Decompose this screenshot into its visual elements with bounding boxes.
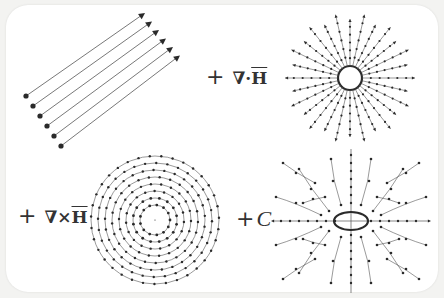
dot-icon [174,272,176,274]
arrowhead-icon [428,219,431,222]
dot-icon [376,196,379,199]
dot-icon [340,39,342,41]
dot-icon [97,249,99,251]
dot-icon [368,68,370,70]
dot-icon [342,48,344,50]
dot-icon [302,238,305,241]
dot-icon [203,225,205,227]
dot-icon [195,231,197,233]
dot-icon [210,209,212,211]
dot-icon [298,53,300,55]
dot-icon [115,188,117,190]
dot-icon [350,162,352,164]
dot-icon [350,242,352,244]
dot-icon [158,197,161,200]
arrowhead-icon [173,56,180,62]
dot-icon [135,206,138,209]
arrowhead-icon [348,19,351,22]
dot-icon [306,56,308,58]
dot-icon [368,81,370,83]
arrowhead-icon [404,89,407,92]
dot-icon [342,106,344,108]
dot-icon [367,100,369,102]
dot-icon [319,114,321,116]
dot-icon [289,220,291,222]
dot-icon [105,207,107,209]
dot-icon [333,89,335,91]
arrowhead-icon [387,125,390,128]
dot-icon [132,214,135,217]
dot-icon [340,236,343,239]
dot-icon [377,55,379,57]
dot-icon [171,157,173,159]
dot-icon [370,282,373,285]
dot-icon [390,188,393,191]
dot-icon [405,238,408,241]
dot-icon [299,66,301,68]
dot-icon [197,221,199,223]
dot-icon [418,278,421,281]
dot-icon [368,86,370,88]
dot-icon [182,211,184,213]
dot-icon [177,247,179,249]
dot-icon [123,171,125,173]
dot-icon [350,202,352,204]
dot-icon [327,123,329,125]
dot-icon [93,238,95,240]
dot-icon [405,268,408,271]
dot-icon [307,220,309,222]
dot-icon [275,244,278,247]
field-curve [283,259,315,279]
dot-icon [160,155,162,157]
dot-icon [415,220,417,222]
dot-icon [170,186,172,188]
dot-icon [120,273,122,275]
arrowhead-icon [292,89,295,92]
arrowhead-icon [285,76,288,79]
dot-icon [349,105,351,107]
dot-icon [298,101,300,103]
arrowhead-icon [309,125,312,128]
dot-icon [336,93,338,95]
arrowhead-icon [362,138,365,141]
arrowhead-icon [145,22,152,28]
dot-icon [150,269,152,271]
dot-icon [425,196,428,199]
field-curve [299,169,329,211]
dot-icon [173,173,175,175]
dot-icon [126,212,128,214]
dot-icon [202,188,204,190]
dot-icon [330,86,332,88]
dot-icon [418,162,421,165]
dot-icon [361,132,363,134]
dot-icon [175,214,178,217]
dot-icon [158,240,161,243]
dot-icon [177,167,179,169]
dot-icon [275,196,278,199]
dot-icon [330,158,333,161]
dot-icon [368,116,370,118]
dot-icon [350,170,352,172]
dot-icon [298,220,300,222]
dot-icon [325,107,327,109]
dot-icon [163,191,165,193]
dot-icon [299,88,301,90]
arrowhead-icon [159,39,166,45]
dot-icon [195,267,197,269]
dot-icon [129,203,131,205]
dot-icon [102,196,104,198]
dot-icon [379,77,381,79]
dot-icon [182,161,184,163]
dot-icon [158,176,160,178]
dot-icon [372,230,375,233]
dot-icon [309,45,311,47]
dot-icon [165,260,167,262]
arrowhead-icon [292,64,295,67]
dot-icon [344,97,346,99]
dot-icon [356,106,358,108]
dot-icon [213,194,215,196]
dot-icon [169,179,171,181]
source-ring [338,66,362,90]
dot-icon [316,220,318,222]
dot-icon [362,93,364,95]
